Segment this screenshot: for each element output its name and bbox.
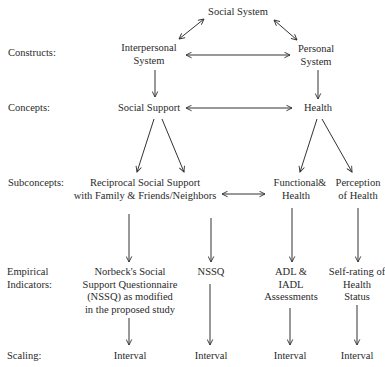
node-nssq-modified: Norbeck's Social Support Questionnaire (… [83, 266, 178, 316]
node-interpersonal-system: Interpersonal System [121, 42, 176, 67]
node-health: Health [304, 102, 332, 115]
node-adl-iadl: ADL & IADL Assessments [264, 266, 318, 304]
arrow-socialsupport-reciprocal-1 [137, 119, 154, 172]
level-label-concepts: Concepts: [8, 102, 50, 115]
node-nssq: NSSQ [198, 266, 225, 279]
node-self-rating: Self-rating of Health Status [329, 266, 385, 304]
node-functional-health: Functional Health [274, 177, 319, 202]
node-social-system: Social System [208, 6, 268, 19]
arrow-social-interpersonal [179, 19, 204, 39]
level-label-empirical-indicators: Empirical Indicators: [7, 266, 52, 291]
arrow-health-perception [322, 119, 352, 172]
node-perception-of-health: Perception of Health [336, 177, 381, 202]
arrow-health-functional [300, 119, 317, 172]
node-personal-system: Personal System [298, 43, 334, 68]
scaling-nssq: Interval [195, 350, 228, 363]
node-social-support: Social Support [118, 102, 180, 115]
arrow-social-personal [274, 20, 297, 40]
arrow-socialsupport-reciprocal-2 [162, 119, 184, 172]
node-ampersand: & [318, 177, 326, 190]
level-label-subconcepts: Subconcepts: [8, 177, 64, 190]
node-reciprocal-social-support: Reciprocal Social Support with Family & … [74, 177, 217, 202]
scaling-self-rating: Interval [341, 350, 374, 363]
scaling-adl: Interval [274, 350, 307, 363]
level-label-scaling: Scaling: [7, 350, 41, 363]
level-label-constructs: Constructs: [8, 47, 56, 60]
scaling-nssq-modified: Interval [114, 350, 147, 363]
